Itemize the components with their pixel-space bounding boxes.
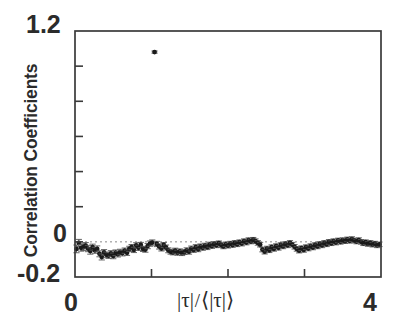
- data-points-group: [73, 50, 382, 260]
- plot-canvas: [0, 0, 411, 333]
- correlation-coefficients-figure: Correlation Coefficients 1.2 0 -0.2 0 4 …: [0, 0, 411, 333]
- data-point: [151, 50, 157, 55]
